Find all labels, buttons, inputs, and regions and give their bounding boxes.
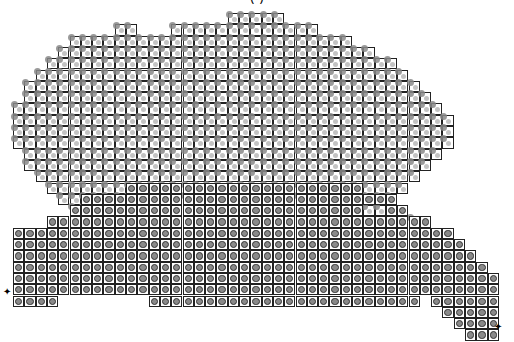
circle-cell <box>126 284 137 295</box>
circle-cell <box>363 216 374 227</box>
circle-cell <box>36 262 47 273</box>
circle-cell <box>273 296 284 307</box>
circle-cell <box>137 205 148 216</box>
circle-cell <box>341 205 352 216</box>
circle-cell <box>465 318 476 329</box>
circle-cell <box>476 307 487 318</box>
circle-cell <box>420 250 431 261</box>
circle-cell <box>171 296 182 307</box>
circle-cell <box>341 250 352 261</box>
circle-cell <box>284 239 295 250</box>
circle-cell <box>296 296 307 307</box>
circle-cell <box>126 183 137 194</box>
circle-cell <box>194 239 205 250</box>
circle-cell <box>13 296 24 307</box>
circle-cell <box>352 216 363 227</box>
circle-cell <box>36 273 47 284</box>
circle-cell <box>341 194 352 205</box>
circle-cell <box>126 262 137 273</box>
circle-cell <box>115 216 126 227</box>
circle-cell <box>273 194 284 205</box>
circle-cell <box>262 296 273 307</box>
circle-cell <box>81 262 92 273</box>
circle-cell <box>273 273 284 284</box>
circle-cell <box>160 205 171 216</box>
circle-cell <box>375 239 386 250</box>
circle-cell <box>386 194 397 205</box>
circle-cell <box>284 216 295 227</box>
circle-cell <box>115 273 126 284</box>
circle-cell <box>442 296 453 307</box>
circle-cell <box>363 296 374 307</box>
circle-cell <box>454 284 465 295</box>
circle-cell <box>103 250 114 261</box>
circle-cell <box>284 262 295 273</box>
circle-cell <box>386 216 397 227</box>
circle-cell <box>476 273 487 284</box>
circle-cell <box>318 194 329 205</box>
circle-cell <box>126 228 137 239</box>
circle-cell <box>284 194 295 205</box>
circle-cell <box>465 262 476 273</box>
grid-canvas: ( ) ✦✦ <box>0 0 514 342</box>
circle-cell <box>420 216 431 227</box>
circle-cell <box>296 250 307 261</box>
circle-cell <box>126 194 137 205</box>
circle-cell <box>70 228 81 239</box>
circle-cell <box>329 273 340 284</box>
circle-cell <box>318 239 329 250</box>
circle-cell <box>228 273 239 284</box>
circle-cell <box>81 228 92 239</box>
circle-cell <box>70 205 81 216</box>
circle-cell <box>205 194 216 205</box>
circle-cell <box>194 194 205 205</box>
circle-cell <box>194 284 205 295</box>
circle-cell <box>70 284 81 295</box>
circle-cell <box>307 228 318 239</box>
circle-cell <box>307 262 318 273</box>
circle-cell <box>13 228 24 239</box>
circle-cell <box>329 262 340 273</box>
circle-cell <box>442 262 453 273</box>
circle-cell <box>397 228 408 239</box>
circle-cell <box>431 284 442 295</box>
circle-cell <box>375 262 386 273</box>
circle-cell <box>205 273 216 284</box>
circle-cell <box>318 183 329 194</box>
circle-cell <box>352 284 363 295</box>
circle-cell <box>24 296 35 307</box>
circle-cell <box>375 228 386 239</box>
circle-cell <box>103 205 114 216</box>
circle-cell <box>363 262 374 273</box>
end-marker-icon: ✦ <box>494 322 502 332</box>
circle-cell <box>160 262 171 273</box>
circle-cell <box>103 228 114 239</box>
circle-cell <box>409 216 420 227</box>
circle-cell <box>36 296 47 307</box>
circle-cell <box>273 183 284 194</box>
circle-cell <box>250 262 261 273</box>
circle-cell <box>488 307 499 318</box>
circle-cell <box>13 250 24 261</box>
circle-cell <box>352 273 363 284</box>
circle-cell <box>431 273 442 284</box>
circle-cell <box>250 205 261 216</box>
circle-cell <box>171 250 182 261</box>
circle-cell <box>228 194 239 205</box>
circle-cell <box>352 228 363 239</box>
circle-cell <box>442 239 453 250</box>
circle-cell <box>296 239 307 250</box>
circle-cell <box>81 250 92 261</box>
circle-cell <box>273 216 284 227</box>
circle-cell <box>307 273 318 284</box>
circle-cell <box>307 205 318 216</box>
circle-cell <box>465 250 476 261</box>
circle-cell <box>409 273 420 284</box>
circle-cell <box>126 239 137 250</box>
circle-cell <box>307 284 318 295</box>
circle-cell <box>431 296 442 307</box>
circle-cell <box>375 250 386 261</box>
circle-cell <box>341 284 352 295</box>
circle-cell <box>205 183 216 194</box>
circle-cell <box>341 273 352 284</box>
